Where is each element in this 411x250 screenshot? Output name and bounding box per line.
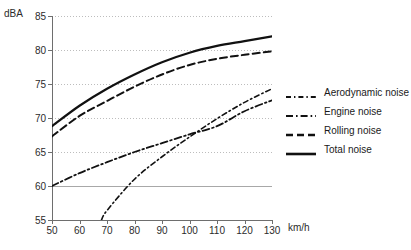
series-line-0 — [102, 89, 273, 220]
legend-item-3[interactable]: Total noise — [286, 140, 409, 159]
plot-area: 55606570758085 5060708090100110120130 — [52, 16, 272, 220]
y-tick-label-70: 70 — [35, 113, 46, 124]
y-tick-label-60: 60 — [35, 181, 46, 192]
legend-label: Engine noise — [324, 106, 382, 117]
chart-legend: Aerodynamic noiseEngine noiseRolling noi… — [286, 83, 409, 159]
x-tick-label-130: 130 — [264, 225, 281, 236]
x-tick-label-100: 100 — [181, 225, 198, 236]
chart-figure: dBA km/h 55606570758085 5060708090100110… — [0, 0, 411, 250]
legend-label: Total noise — [324, 144, 372, 155]
x-tickmark-130 — [272, 220, 273, 224]
legend-line-swatch — [286, 88, 316, 98]
y-tick-label-75: 75 — [35, 79, 46, 90]
legend-line-swatch — [286, 126, 316, 136]
legend-item-2[interactable]: Rolling noise — [286, 121, 409, 140]
x-tick-label-110: 110 — [209, 225, 225, 236]
y-tick-label-80: 80 — [35, 45, 46, 56]
x-tick-label-70: 70 — [101, 225, 112, 236]
legend-label: Rolling noise — [324, 125, 381, 136]
legend-item-1[interactable]: Engine noise — [286, 102, 409, 121]
x-tick-label-90: 90 — [156, 225, 167, 236]
x-tick-label-60: 60 — [74, 225, 85, 236]
y-axis-unit-label: dBA — [4, 8, 23, 19]
series-line-2 — [52, 51, 272, 136]
legend-line-swatch — [286, 145, 316, 155]
x-tick-label-80: 80 — [129, 225, 140, 236]
x-axis-line — [52, 220, 272, 221]
legend-label: Aerodynamic noise — [324, 87, 409, 98]
x-tick-label-50: 50 — [46, 225, 57, 236]
series-lines — [52, 16, 272, 220]
y-tick-label-55: 55 — [35, 215, 46, 226]
x-tick-label-120: 120 — [236, 225, 253, 236]
legend-line-swatch — [286, 107, 316, 117]
y-tick-label-85: 85 — [35, 11, 46, 22]
y-tick-label-65: 65 — [35, 147, 46, 158]
x-axis-unit-label: km/h — [288, 222, 310, 233]
legend-item-0[interactable]: Aerodynamic noise — [286, 83, 409, 102]
